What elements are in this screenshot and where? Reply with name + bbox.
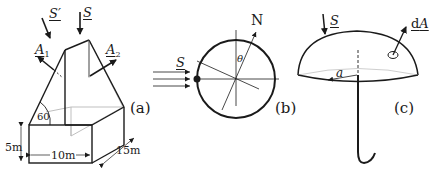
label-a2: A2 [106,43,120,56]
panel-label-c: (c) [394,101,414,116]
umbrella-s-arrow [323,14,325,34]
label-height: 5m [5,142,22,153]
label-s: S [83,6,92,19]
label-a2-text: A [106,42,115,57]
north-axis-arrow [222,32,256,110]
label-theta: θ [237,54,243,64]
label-a2-subscript: 2 [115,50,120,59]
label-c-s: S [330,14,339,27]
label-radius-a: a [336,67,343,79]
label-da-a: A [419,16,428,31]
label-angle-60: 60 [37,112,50,122]
physics-figure: S′ S A1 A2 60 5m 10m 15m (a) S N θ (b) S… [0,0,440,169]
da-normal-arrow [393,27,406,55]
label-s-prime: S′ [49,7,61,20]
diagram-drawing [0,0,440,169]
label-width: 10m [50,150,76,161]
label-a1: A1 [35,43,49,56]
label-da: dA [411,17,429,30]
label-a1-subscript: 1 [44,50,49,59]
vector-s-prime-arrow [42,18,50,38]
label-n: N [251,13,263,27]
label-b-s: S [176,56,185,69]
label-a1-text: A [35,42,44,57]
panel-label-b: (b) [275,101,296,116]
panel-label-a: (a) [130,101,151,116]
label-depth: 15m [116,145,140,156]
vector-a2-arrow [90,60,116,76]
panel-b-sphere [153,30,279,118]
panel-c-umbrella [298,14,418,163]
observer-point [194,76,201,83]
